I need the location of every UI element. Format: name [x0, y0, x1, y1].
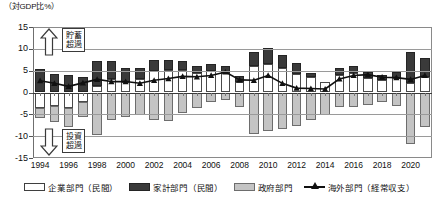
x-minor-tick	[396, 93, 397, 96]
plot-area	[33, 27, 432, 158]
x-tick-label: 2020	[396, 161, 426, 170]
y-tick-mark	[29, 49, 33, 50]
x-tick-label: 2000	[111, 161, 141, 170]
legend-swatch-household-icon	[129, 183, 150, 191]
x-minor-tick	[297, 93, 298, 96]
x-tick-label: 2014	[310, 161, 340, 170]
x-minor-tick	[168, 93, 169, 96]
x-minor-tick	[83, 93, 84, 96]
legend-label: 政府部門	[258, 181, 293, 193]
x-tick-label: 2002	[139, 161, 169, 170]
x-minor-tick	[69, 93, 70, 96]
x-tick-label: 2010	[253, 161, 283, 170]
x-minor-tick	[282, 93, 283, 96]
legend-item-corporate[interactable]: 企業部門（民間）	[24, 181, 118, 193]
y-tick-label: -10	[0, 132, 28, 141]
gridline	[33, 71, 432, 72]
investment-surplus-line1: 投資	[66, 132, 81, 141]
y-tick-label: 15	[0, 23, 28, 32]
y-tick-label: 0	[0, 88, 28, 97]
x-minor-tick	[339, 93, 340, 96]
x-minor-tick	[325, 93, 326, 96]
x-minor-tick	[311, 93, 312, 96]
x-minor-tick	[183, 93, 184, 96]
x-minor-tick	[54, 93, 55, 96]
x-tick-label: 2018	[367, 161, 397, 170]
overseas-line-marker	[422, 72, 428, 78]
x-minor-tick	[368, 93, 369, 96]
y-tick-label: 5	[0, 66, 28, 75]
y-tick-mark	[29, 71, 33, 72]
investment-surplus-line2: 超過	[66, 141, 81, 150]
zero-line	[33, 93, 432, 94]
investment-surplus-callout: 投資 超過	[62, 129, 85, 153]
x-minor-tick	[211, 93, 212, 96]
x-tick-label: 1994	[25, 161, 55, 170]
x-tick-label: 1998	[82, 161, 112, 170]
x-minor-tick	[225, 93, 226, 96]
investment-surplus-arrow-icon	[40, 128, 58, 156]
x-minor-tick	[268, 93, 269, 96]
y-tick-label: 10	[0, 44, 28, 53]
legend-swatch-corporate-icon	[24, 183, 45, 191]
x-minor-tick	[411, 93, 412, 96]
legend-label: 家計部門（民間）	[153, 181, 223, 193]
y-tick-label: -15	[0, 154, 28, 163]
chart-legend: 企業部門（民間）家計部門（民間）政府部門海外部門（経常収支）	[0, 178, 439, 195]
x-minor-tick	[240, 93, 241, 96]
legend-swatch-government-icon	[234, 183, 255, 191]
x-minor-tick	[382, 93, 383, 96]
x-tick-label: 2012	[282, 161, 312, 170]
legend-item-government[interactable]: 政府部門	[234, 181, 293, 193]
axis-unit-title: （対GDP比%）	[4, 2, 59, 12]
y-tick-mark	[29, 158, 33, 159]
x-minor-tick	[425, 93, 426, 96]
chart-root: （対GDP比%） 151050-5-10-15 1994199619982000…	[0, 0, 439, 197]
y-tick-mark	[29, 27, 33, 28]
x-minor-tick	[354, 93, 355, 96]
x-minor-tick	[254, 93, 255, 96]
legend-swatch-overseas-icon	[304, 182, 325, 191]
gridline	[33, 114, 432, 115]
legend-item-household[interactable]: 家計部門（民間）	[129, 181, 223, 193]
overseas-line-marker	[265, 72, 271, 78]
y-tick-mark	[29, 136, 33, 137]
x-minor-tick	[111, 93, 112, 96]
x-minor-tick	[154, 93, 155, 96]
x-tick-label: 1996	[54, 161, 84, 170]
gridline	[33, 49, 432, 50]
legend-label: 企業部門（民間）	[48, 181, 118, 193]
x-tick-label: 2008	[225, 161, 255, 170]
x-tick-label: 2004	[168, 161, 198, 170]
y-tick-mark	[29, 114, 33, 115]
x-minor-tick	[197, 93, 198, 96]
savings-surplus-callout: 貯蓄 超過	[62, 28, 85, 52]
x-minor-tick	[140, 93, 141, 96]
legend-item-overseas[interactable]: 海外部門（経常収支）	[304, 181, 415, 193]
x-minor-tick	[126, 93, 127, 96]
x-minor-tick	[97, 93, 98, 96]
y-tick-mark	[29, 93, 33, 94]
y-tick-label: -5	[0, 110, 28, 119]
gridline	[33, 136, 432, 137]
legend-label: 海外部門（経常収支）	[328, 181, 415, 193]
overseas-line-marker	[279, 80, 285, 86]
x-tick-label: 2006	[196, 161, 226, 170]
savings-surplus-arrow-icon	[40, 28, 58, 56]
savings-surplus-line1: 貯蓄	[66, 31, 81, 40]
x-minor-tick	[40, 93, 41, 96]
x-tick-label: 2016	[339, 161, 369, 170]
savings-surplus-line2: 超過	[66, 40, 81, 49]
